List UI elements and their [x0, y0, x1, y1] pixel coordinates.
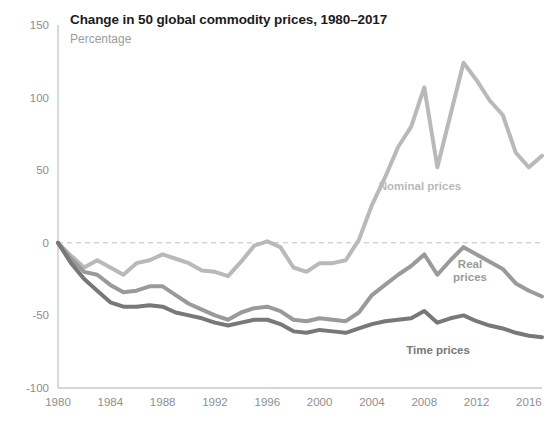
- chart-plot-area: 150100500-50-100 19801984198819921996200…: [0, 0, 555, 429]
- series-label-nominal-prices: Nominal prices: [379, 180, 461, 192]
- x-tick-2008: 2008: [411, 396, 437, 408]
- series-layer: [58, 63, 542, 337]
- x-tick-2000: 2000: [307, 396, 333, 408]
- page-title: Change in 50 global commodity prices, 19…: [70, 12, 530, 29]
- series-label-real-prices-2: prices: [453, 271, 487, 283]
- y-tick-150: 150: [30, 19, 49, 31]
- y-tick--100: -100: [26, 382, 49, 394]
- series-label-real-prices: Real: [458, 258, 482, 270]
- x-tick-2016: 2016: [516, 396, 542, 408]
- y-tick-50: 50: [36, 164, 49, 176]
- commodity-prices-chart: Change in 50 global commodity prices, 19…: [0, 0, 555, 429]
- x-tick-1988: 1988: [150, 396, 176, 408]
- x-tick-1996: 1996: [255, 396, 281, 408]
- x-axis-tick-labels: 1980198419881992199620002004200820122016: [45, 396, 542, 408]
- chart-header: Change in 50 global commodity prices, 19…: [70, 12, 530, 46]
- y-axis-tick-labels: 150100500-50-100: [26, 19, 49, 394]
- series-label-time-prices: Time prices: [406, 344, 470, 356]
- x-tick-1984: 1984: [98, 396, 124, 408]
- x-tick-1992: 1992: [202, 396, 228, 408]
- series-line-nominal-prices: [58, 63, 542, 276]
- chart-subtitle: Percentage: [70, 32, 530, 46]
- y-tick-100: 100: [30, 92, 49, 104]
- y-tick--50: -50: [32, 309, 49, 321]
- x-tick-2004: 2004: [359, 396, 385, 408]
- x-tick-2012: 2012: [464, 396, 490, 408]
- x-tick-1980: 1980: [45, 396, 71, 408]
- y-tick-0: 0: [43, 237, 49, 249]
